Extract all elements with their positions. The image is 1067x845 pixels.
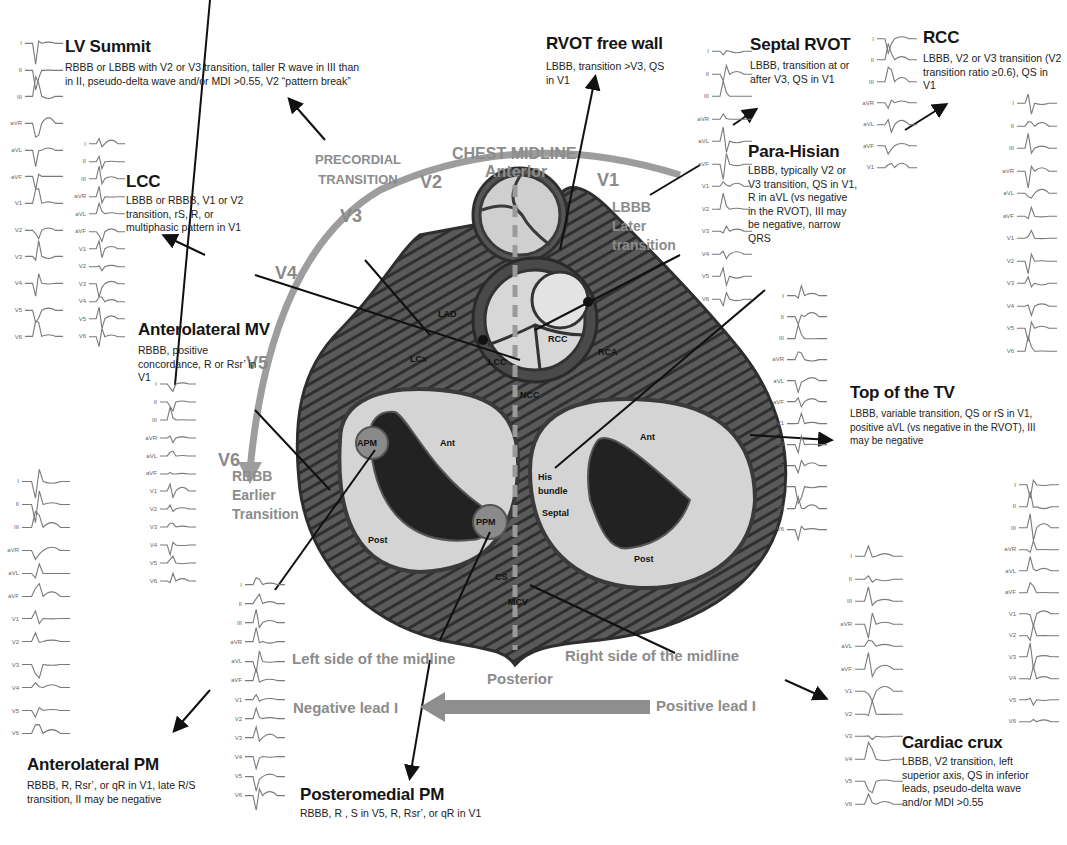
- ecg-waveform: [89, 275, 125, 293]
- ecg-lead: aVL: [5, 562, 70, 585]
- ecg-waveform: [22, 653, 70, 676]
- svg-text:bundle: bundle: [538, 486, 568, 496]
- ecg-lead: III: [770, 328, 827, 349]
- ecg-lead: V5: [1002, 689, 1059, 711]
- ecg-waveform: [855, 590, 903, 613]
- ecg-waveform: [89, 310, 125, 328]
- ecg-lead-label: V2: [770, 441, 784, 447]
- ecg-lead: V6: [695, 288, 752, 311]
- ecg-lead: V6: [1000, 340, 1057, 363]
- ecg-lead-label: I: [72, 141, 86, 147]
- ecg-lead: III: [5, 516, 70, 539]
- ecg-lead-label: V3: [1000, 280, 1014, 286]
- ecg-lead-label: V4: [72, 298, 86, 304]
- ecg-waveform: [22, 699, 70, 722]
- ecg-waveform: [1017, 160, 1057, 183]
- ecg-lead-label: aVR: [838, 621, 852, 627]
- ecg-lead-label: V5: [838, 778, 852, 784]
- ecg-lead-label: V6: [770, 526, 784, 532]
- ecg-lead-label: V3: [5, 662, 19, 668]
- ecg-lead-label: III: [1000, 145, 1014, 151]
- ecg-lead: III: [838, 590, 903, 613]
- ecg-lead-label: aVL: [5, 570, 19, 576]
- ecg-waveform: [1019, 582, 1059, 604]
- ecg-lead: aVF: [8, 163, 63, 190]
- ecg-lead-label: aVL: [8, 147, 22, 153]
- ecg-lead-label: V4: [770, 484, 784, 490]
- site-rcc: RCC LBBB, V2 or V3 transition (V2 transi…: [923, 28, 1063, 93]
- ecg-lead-label: aVF: [8, 174, 22, 180]
- ecg-waveform: [89, 188, 125, 206]
- ecg-lead-label: I: [143, 381, 157, 387]
- ecg-lead-label: I: [695, 48, 709, 54]
- ecg-lead: V3: [228, 728, 285, 747]
- ecg-lead: V2: [5, 630, 70, 653]
- ecg-lead-label: aVL: [143, 453, 157, 459]
- ecg-lead-label: V5: [1000, 325, 1014, 331]
- ecg-lead: V3: [838, 725, 903, 748]
- ecg-waveform: [245, 747, 285, 766]
- ecg-waveform: [855, 793, 903, 816]
- ecg-lead-label: V1: [5, 616, 19, 622]
- ecg-waveform: [712, 288, 752, 311]
- ecg-waveform: [712, 265, 752, 288]
- ecg-lead-label: III: [838, 598, 852, 604]
- ecg-lead-label: V4: [228, 754, 242, 760]
- ecg-lead-label: V3: [695, 228, 709, 234]
- ecg-waveform: [1019, 603, 1059, 625]
- ecg-lead-label: II: [1000, 123, 1014, 129]
- ecg-lead-label: V3: [1002, 654, 1016, 660]
- lead-v2-label: V2: [420, 172, 442, 193]
- site-rvot-free-wall: RVOT free wall LBBB, transition >V3, QS …: [546, 34, 666, 87]
- ecg-lead-label: aVL: [695, 138, 709, 144]
- ecg-waveform: [787, 434, 827, 455]
- site-lcc: LCC LBBB or RBBB, V1 or V2 transition, r…: [126, 172, 266, 235]
- ecg-lead-label: V4: [143, 542, 157, 548]
- ecg-lead-label: aVR: [228, 639, 242, 645]
- site-title: Para-Hisian: [748, 142, 858, 162]
- ecg-waveform: [712, 40, 752, 63]
- ecg-lead-label: V5: [8, 307, 22, 313]
- ecg-lead-label: V6: [1000, 348, 1014, 354]
- ecg-lead: aVL: [143, 447, 196, 465]
- ecg-waveform: [160, 447, 196, 465]
- ecg-strip: IIIIIIaVRaVLaVFV1V2V3V4V5V6: [838, 545, 903, 815]
- posterior-label: Posterior: [487, 670, 553, 687]
- svg-text:LCx: LCx: [410, 354, 427, 364]
- ecg-waveform: [22, 676, 70, 699]
- svg-text:PPM: PPM: [476, 517, 496, 527]
- ecg-waveform: [245, 709, 285, 728]
- svg-text:Septal: Septal: [542, 508, 569, 518]
- ecg-lead-label: V1: [770, 420, 784, 426]
- lbbb-later-transition-label: LBBB Later transition: [612, 198, 676, 255]
- ecg-lead: aVF: [860, 135, 917, 156]
- site-para-hisian: Para-Hisian LBBB, typically V2 or V3 tra…: [748, 142, 858, 245]
- ecg-lead-label: I: [770, 293, 784, 299]
- ecg-lead: aVF: [1002, 582, 1059, 604]
- ecg-waveform: [160, 482, 196, 500]
- ecg-waveform: [22, 630, 70, 653]
- svg-text:Post: Post: [634, 554, 654, 564]
- ecg-lead-label: aVF: [228, 677, 242, 683]
- ecg-waveform: [22, 539, 70, 562]
- site-desc: RBBB, R, Rsr’, or qR in V1, late R/S tra…: [27, 779, 197, 806]
- ecg-lead: V6: [5, 722, 70, 745]
- ecg-lead-label: II: [860, 57, 874, 63]
- ecg-waveform: [1019, 517, 1059, 539]
- ecg-lead-label: aVF: [695, 161, 709, 167]
- site-title: LCC: [126, 172, 266, 192]
- ecg-lead: V6: [143, 572, 196, 590]
- ecg-lead-label: II: [143, 399, 157, 405]
- ecg-lead-label: V1: [1000, 235, 1014, 241]
- ecg-waveform: [787, 285, 827, 306]
- rbbb-earlier-transition-label: RBBB Earlier Transition: [232, 467, 299, 524]
- ecg-lead-label: V6: [838, 801, 852, 807]
- ecg-lead: V4: [1002, 668, 1059, 690]
- ecg-waveform: [855, 613, 903, 636]
- ecg-waveform: [22, 722, 70, 745]
- ecg-waveform: [25, 217, 63, 244]
- ecg-lead: I: [72, 135, 125, 153]
- ecg-waveform: [89, 153, 125, 171]
- ecg-lead-label: V5: [695, 273, 709, 279]
- ecg-lead: V2: [228, 709, 285, 728]
